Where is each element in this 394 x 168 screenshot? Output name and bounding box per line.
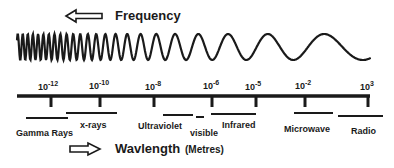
tick-label-1e-2: 10-2 bbox=[295, 79, 311, 91]
tick-label-1e-5: 10-5 bbox=[245, 80, 261, 92]
frequency-label: Frequency bbox=[115, 8, 181, 23]
frequency-arrow-icon bbox=[66, 10, 102, 22]
wavelength-label: Wavlength bbox=[115, 141, 180, 156]
wavelength-arrow-icon bbox=[70, 143, 100, 155]
em-wave bbox=[17, 34, 370, 60]
band-label-ultraviolet: Ultraviolet bbox=[138, 121, 182, 131]
tick-label-1e-6: 10-6 bbox=[203, 79, 219, 91]
spectrum-graphic bbox=[0, 0, 394, 168]
band-label-visible: visible bbox=[190, 128, 218, 138]
band-label-microwave: Microwave bbox=[284, 124, 330, 134]
tick-label-1e-12: 10-12 bbox=[38, 80, 58, 92]
tick-label-1e-10: 10-10 bbox=[89, 79, 109, 91]
band-label-x-rays: x-rays bbox=[80, 120, 107, 130]
unit-label: (Metres) bbox=[185, 144, 224, 155]
band-label-gamma-rays: Gamma Rays bbox=[16, 128, 73, 138]
band-label-radio: Radio bbox=[351, 126, 376, 136]
band-ranges bbox=[26, 113, 383, 118]
tick-label-1e3: 103 bbox=[360, 80, 374, 92]
tick-label-1e-8: 10-8 bbox=[145, 80, 161, 92]
band-label-infrared: Infrared bbox=[222, 120, 256, 130]
